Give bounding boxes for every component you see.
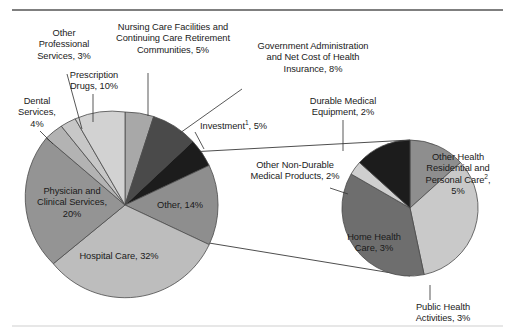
label-prescription-drugs: Prescription Drugs, 10% xyxy=(48,70,140,93)
label-investment-text: Investment xyxy=(200,121,245,131)
label-home-health-care: Home Health Care, 3% xyxy=(336,232,412,255)
label-other-nondurable: Other Non-Durable Medical Products, 2% xyxy=(230,160,360,183)
label-investment: Investment1, 5% xyxy=(200,121,310,132)
label-dental-services: Dental Services, 4% xyxy=(0,96,74,130)
label-other-slice: Other, 14% xyxy=(140,200,220,211)
label-hospital-care: Hospital Care, 32% xyxy=(62,251,176,262)
label-government-admin: Government Administration and Net Cost o… xyxy=(228,41,398,75)
label-physician-clinical: Physician and Clinical Services, 20% xyxy=(20,186,124,220)
label-public-health-activities: Public Health Activities, 3% xyxy=(396,302,490,325)
label-other-health-residential-a: Other Health Residential and Personal Ca… xyxy=(426,152,490,185)
label-durable-medical-equipment: Durable Medical Equipment, 2% xyxy=(281,96,405,119)
chart-canvas: Other Professional Services, 3% Nursing … xyxy=(0,0,515,332)
label-investment-tail: , 5% xyxy=(249,121,267,131)
label-other-health-residential: Other Health Residential and Personal Ca… xyxy=(414,152,502,198)
